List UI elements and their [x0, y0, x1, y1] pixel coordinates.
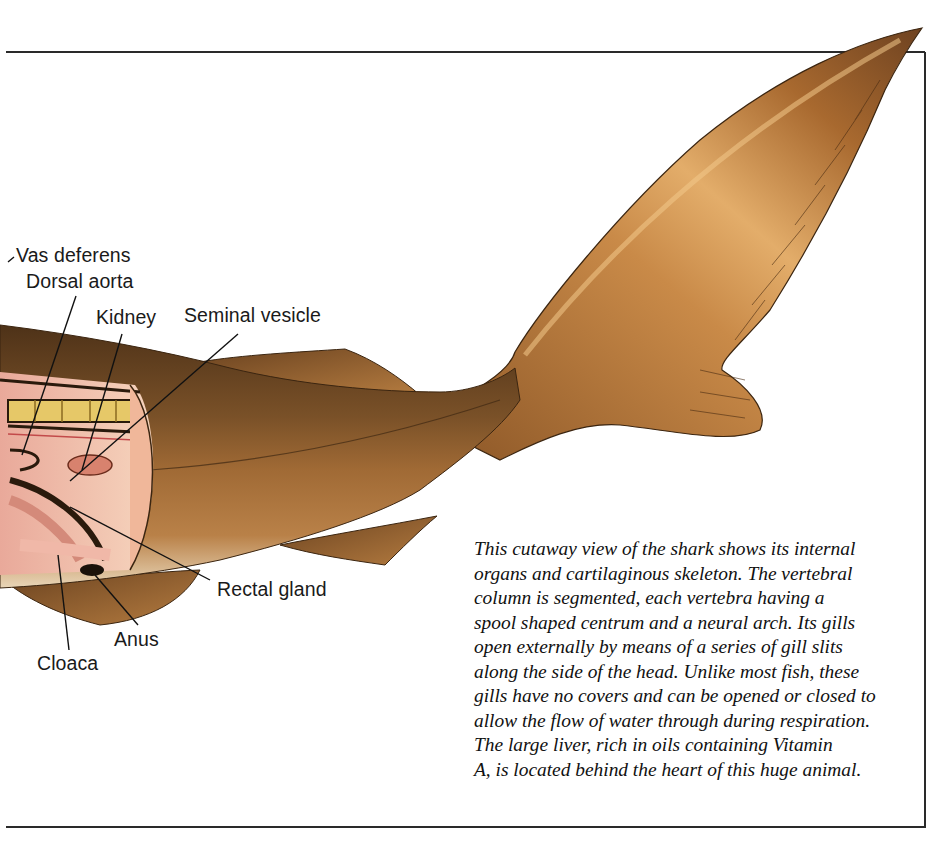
caption-line: A, is located behind the heart of this h… [474, 758, 924, 783]
caption-line: This cutaway view of the shark shows its… [474, 537, 924, 562]
label-cloaca: Cloaca [37, 652, 98, 675]
caption-line: gills have no covers and can be opened o… [474, 684, 924, 709]
caption-line: along the side of the head. Unlike most … [474, 660, 924, 685]
caption-line: allow the flow of water through during r… [474, 709, 924, 734]
label-anus: Anus [114, 628, 159, 651]
figure-caption: This cutaway view of the shark shows its… [474, 537, 924, 782]
vertebral-column [8, 400, 133, 422]
label-rectal-gland: Rectal gland [217, 578, 327, 601]
label-seminal-vesicle: Seminal vesicle [184, 304, 321, 327]
caption-line: column is segmented, each vertebra havin… [474, 586, 924, 611]
kidney-organ [68, 455, 112, 475]
caption-line: open externally by means of a series of … [474, 635, 924, 660]
anus-opening [80, 564, 104, 576]
label-vas-deferens: Vas deferens [16, 244, 131, 267]
caption-line: organs and cartilaginous skeleton. The v… [474, 562, 924, 587]
caption-line: The large liver, rich in oils containing… [474, 733, 924, 758]
label-kidney: Kidney [96, 306, 156, 329]
cutaway-section [0, 372, 153, 576]
label-dorsal-aorta: Dorsal aorta [26, 270, 133, 293]
caption-line: spool shaped centrum and a neural arch. … [474, 611, 924, 636]
